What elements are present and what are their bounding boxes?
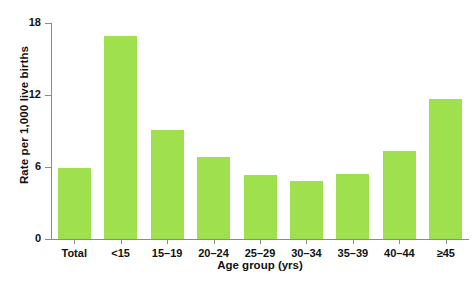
x-tick <box>260 239 261 244</box>
y-tick-label-0: 0 <box>35 232 41 244</box>
y-axis-title-text: Rate per 1,000 live births <box>18 46 30 184</box>
x-tick-label: 35–39 <box>338 247 369 259</box>
bar <box>104 36 137 239</box>
x-tick-label: 30–34 <box>291 247 322 259</box>
bar <box>244 175 277 239</box>
bar-chart-figure: Rate per 1,000 live births 061218 Total<… <box>0 0 476 288</box>
bar <box>151 130 184 239</box>
x-tick-label: 15–19 <box>152 247 183 259</box>
y-tick-18: 18 <box>45 23 51 24</box>
x-tick <box>446 239 447 244</box>
bar <box>290 181 323 239</box>
x-tick-label: 20–24 <box>198 247 229 259</box>
x-tick-label: ≥45 <box>437 247 455 259</box>
y-tick-label-18: 18 <box>29 16 41 28</box>
y-tick-label-6: 6 <box>35 160 41 172</box>
y-tick-0: 0 <box>45 239 51 240</box>
x-tick <box>121 239 122 244</box>
y-tick-label-12: 12 <box>29 88 41 100</box>
x-tick <box>214 239 215 244</box>
x-tick <box>399 239 400 244</box>
x-tick-label: <15 <box>111 247 130 259</box>
x-tick <box>167 239 168 244</box>
y-axis-title: Rate per 1,000 live births <box>14 0 34 230</box>
bar-series <box>51 23 469 239</box>
x-tick <box>353 239 354 244</box>
plot-area: 061218 Total<1515–1920–2425–2930–3435–39… <box>51 23 469 239</box>
bar <box>58 168 91 239</box>
bar <box>429 99 462 239</box>
x-axis-title: Age group (yrs) <box>51 259 469 271</box>
bar <box>383 151 416 239</box>
bar <box>197 157 230 239</box>
x-tick-label: Total <box>61 247 86 259</box>
x-tick-label: 25–29 <box>245 247 276 259</box>
x-tick <box>306 239 307 244</box>
x-tick-label: 40–44 <box>384 247 415 259</box>
x-tick <box>74 239 75 244</box>
y-tick-12: 12 <box>45 95 51 96</box>
bar <box>336 174 369 239</box>
y-tick-6: 6 <box>45 167 51 168</box>
